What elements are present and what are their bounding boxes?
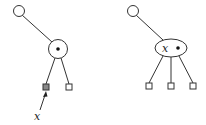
edge-internal-to-leaf-3 <box>179 56 193 83</box>
edge-root-to-internal <box>22 15 52 42</box>
internal-node-dot <box>56 47 60 51</box>
edge-root-to-internal <box>136 15 163 40</box>
pointer-arrow-head-icon <box>43 91 48 97</box>
pointer-arrow-shaft <box>40 95 45 110</box>
edge-internal-to-leaf-1 <box>149 56 163 83</box>
leaf-right <box>66 84 72 90</box>
tree-insertion-diagram: x x <box>0 0 206 125</box>
root-node <box>128 6 139 17</box>
internal-node <box>155 39 187 57</box>
leaf-3 <box>190 83 196 89</box>
internal-node-key: x <box>162 42 169 55</box>
leaf-1 <box>146 83 152 89</box>
right-diagram: x <box>128 6 197 90</box>
leaf-2 <box>168 83 174 89</box>
edge-internal-to-right-leaf <box>61 58 69 84</box>
pointer-label: x <box>34 110 41 123</box>
internal-node-dot <box>176 46 180 50</box>
root-node <box>14 6 25 17</box>
edge-internal-to-left-leaf <box>46 58 55 84</box>
highlighted-leaf <box>43 84 49 90</box>
left-diagram: x <box>14 6 73 124</box>
